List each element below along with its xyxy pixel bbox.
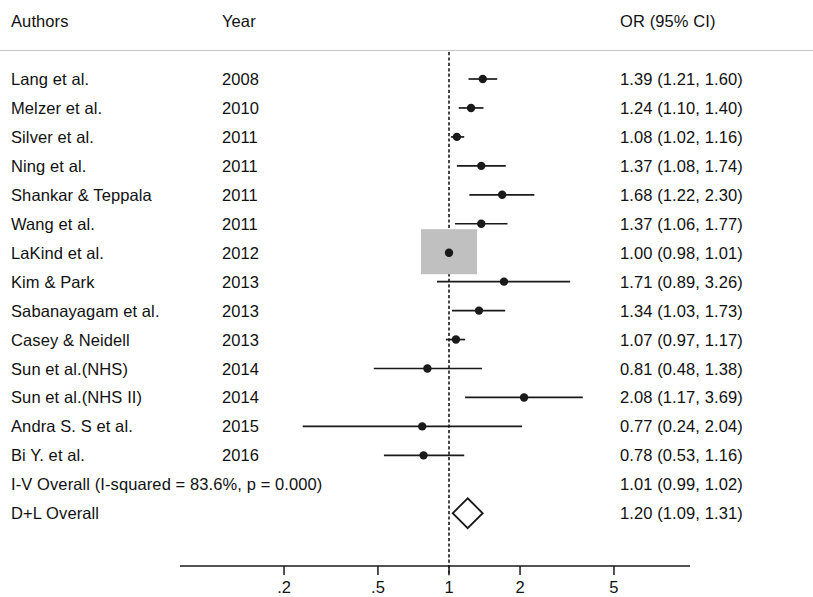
study-year: 2013 xyxy=(222,274,259,291)
study-year: 2011 xyxy=(222,187,258,204)
or-ci-value: 1.07 (0.97, 1.17) xyxy=(620,332,743,349)
study-year: 2010 xyxy=(222,100,259,117)
study-year: 2015 xyxy=(222,418,259,435)
study-year: 2013 xyxy=(222,332,259,349)
forest-row-marker xyxy=(469,75,498,83)
forest-row-marker xyxy=(459,104,484,112)
study-year: 2013 xyxy=(222,303,259,320)
or-ci-value: 1.39 (1.21, 1.60) xyxy=(620,71,743,88)
forest-row-marker xyxy=(374,364,482,372)
x-axis-tick-label: .5 xyxy=(371,578,385,597)
study-label: D+L Overall xyxy=(11,505,99,522)
forest-row-marker xyxy=(384,451,464,459)
forest-row-marker xyxy=(451,133,464,141)
study-label: I-V Overall (I-squared = 83.6%, p = 0.00… xyxy=(11,476,322,493)
x-axis-tick-label: 5 xyxy=(609,578,618,597)
forest-row-marker xyxy=(457,162,506,170)
or-ci-value: 1.08 (1.02, 1.16) xyxy=(620,129,743,146)
forest-row-marker xyxy=(465,393,583,401)
study-label: Shankar & Teppala xyxy=(11,187,152,204)
study-year: 2011 xyxy=(222,216,258,233)
forest-row-marker xyxy=(455,220,508,228)
forest-row-marker xyxy=(453,498,483,528)
study-year: 2008 xyxy=(222,71,259,88)
study-year: 2016 xyxy=(222,447,259,464)
study-label: Melzer et al. xyxy=(11,100,102,117)
or-ci-value: 1.24 (1.10, 1.40) xyxy=(620,100,743,117)
x-axis-tick-label: 1 xyxy=(444,578,453,597)
forest-row-marker xyxy=(446,335,465,343)
study-label: Silver et al. xyxy=(11,129,94,146)
study-label: LaKind et al. xyxy=(11,245,104,262)
or-ci-value: 1.01 (0.99, 1.02) xyxy=(620,476,743,493)
or-ci-value: 0.77 (0.24, 2.04) xyxy=(620,418,743,435)
study-label: Sun et al.(NHS) xyxy=(11,361,128,378)
forest-row-marker xyxy=(421,229,477,274)
study-label: Andra S. S et al. xyxy=(11,418,133,435)
study-year: 2014 xyxy=(222,361,259,378)
or-ci-value: 2.08 (1.17, 3.69) xyxy=(620,389,743,406)
or-ci-value: 0.81 (0.48, 1.38) xyxy=(620,361,743,378)
study-label: Wang et al. xyxy=(11,216,95,233)
study-year: 2014 xyxy=(222,389,259,406)
study-year: 2011 xyxy=(222,158,258,175)
or-ci-value: 1.71 (0.89, 3.26) xyxy=(620,274,743,291)
or-ci-value: 1.37 (1.08, 1.74) xyxy=(620,158,743,175)
study-label: Ning et al. xyxy=(11,158,86,175)
or-ci-value: 0.78 (0.53, 1.16) xyxy=(620,447,743,464)
forest-row-marker xyxy=(469,191,534,199)
forest-row-marker xyxy=(452,306,505,314)
x-axis-tick-label: 2 xyxy=(515,578,524,597)
study-label: Lang et al. xyxy=(11,71,89,88)
study-label: Sabanayagam et al. xyxy=(11,303,160,320)
study-year: 2011 xyxy=(222,129,258,146)
or-ci-value: 1.34 (1.03, 1.73) xyxy=(620,303,743,320)
study-year: 2012 xyxy=(222,245,259,262)
or-ci-value: 1.68 (1.22, 2.30) xyxy=(620,187,743,204)
or-ci-value: 1.20 (1.09, 1.31) xyxy=(620,505,743,522)
or-ci-value: 1.00 (0.98, 1.01) xyxy=(620,245,743,262)
forest-row-marker xyxy=(303,422,522,430)
study-label: Sun et al.(NHS II) xyxy=(11,389,142,406)
x-axis-tick-label: .2 xyxy=(277,578,291,597)
study-label: Casey & Neidell xyxy=(11,332,130,349)
study-label: Kim & Park xyxy=(11,274,95,291)
forest-plot: Authors Year OR (95% CI) Lang et al.2008… xyxy=(0,0,813,597)
forest-row-marker xyxy=(437,277,570,285)
study-label: Bi Y. et al. xyxy=(11,447,85,464)
or-ci-value: 1.37 (1.06, 1.77) xyxy=(620,216,743,233)
